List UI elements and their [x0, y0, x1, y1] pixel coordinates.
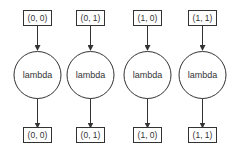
lambda-node-0-label: lambda: [23, 70, 53, 80]
output-node-3-label: (1, 1): [193, 130, 213, 140]
graph-column-3: (1, 1) lambda (1, 1): [179, 11, 226, 143]
graph-column-1: (0, 1) lambda (0, 1): [67, 11, 114, 143]
input-node-1-label: (0, 1): [81, 13, 101, 23]
input-node-3-label: (1, 1): [193, 13, 213, 23]
lambda-node-1-label: lambda: [76, 70, 106, 80]
graph-column-2: (1, 0) lambda (1, 0): [124, 11, 171, 143]
task-graph: (0, 0) lambda (0, 0) (0, 1) lambda (0, 1…: [0, 0, 246, 144]
graph-column-0: (0, 0) lambda (0, 0): [14, 11, 61, 143]
lambda-node-3-label: lambda: [188, 70, 218, 80]
output-node-1-label: (0, 1): [81, 130, 101, 140]
output-node-0-label: (0, 0): [28, 130, 48, 140]
input-node-0-label: (0, 0): [28, 13, 48, 23]
output-node-2-label: (1, 0): [138, 130, 158, 140]
input-node-2-label: (1, 0): [138, 13, 158, 23]
lambda-node-2-label: lambda: [133, 70, 163, 80]
